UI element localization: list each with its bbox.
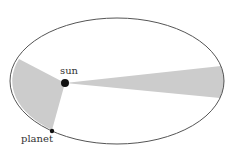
- right-sector: [65, 66, 224, 98]
- sun-icon: [61, 79, 69, 87]
- sun-label: sun: [60, 66, 78, 76]
- left-sector: [12, 59, 65, 130]
- planet-label: planet: [21, 134, 53, 144]
